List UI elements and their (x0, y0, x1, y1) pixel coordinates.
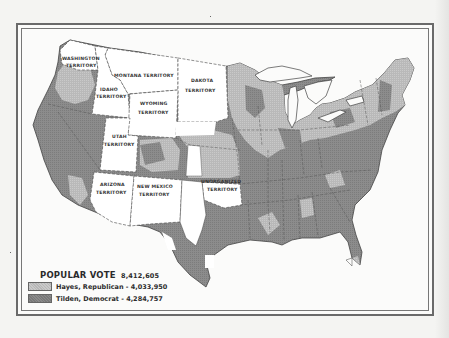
territory-arizona (90, 172, 134, 226)
lake-superior (255, 66, 312, 82)
unshaded-area-nebraska (176, 122, 216, 136)
label-new-mexico-territory: NEW MEXICO (137, 184, 173, 189)
svg-text:TERRITORY: TERRITORY (207, 187, 238, 192)
label-washington-territory: WASHINGTON (62, 56, 100, 61)
legend-label-hayes: Hayes, Republican - 4,033,950 (56, 283, 167, 291)
label-wyoming-territory: WYOMING (140, 101, 167, 106)
tilden-swatch (28, 294, 52, 303)
label-utah-territory: UTAH (112, 134, 127, 139)
label-dakota-territory: DAKOTA (191, 78, 213, 83)
hayes-patch (300, 198, 314, 218)
gulf-lagoon-florida (346, 258, 352, 266)
hayes-swatch (28, 282, 52, 291)
label-unorganized-territory: UNORGANIZED (201, 179, 241, 184)
legend-title: POPULAR VOTE 8,412,605 (40, 270, 167, 280)
tilden-patch (378, 80, 392, 112)
svg-text:TERRITORY: TERRITORY (138, 110, 169, 115)
svg-text:TERRITORY: TERRITORY (66, 63, 97, 68)
svg-text:TERRITORY: TERRITORY (96, 94, 127, 99)
territory-west-kansas-unshaded (186, 145, 202, 176)
label-montana-territory: MONTANA TERRITORY (114, 73, 174, 78)
legend-item-hayes: Hayes, Republican - 4,033,950 (28, 281, 167, 292)
legend-title-text: POPULAR VOTE (40, 270, 116, 280)
label-idaho-territory: IDAHO (100, 87, 118, 92)
legend: POPULAR VOTE 8,412,605 Hayes, Republican… (28, 270, 167, 304)
lake-michigan (288, 86, 298, 128)
svg-text:TERRITORY: TERRITORY (139, 192, 170, 197)
legend-label-tilden: Tilden, Democrat - 4,284,757 (56, 295, 163, 303)
legend-total-votes: 8,412,605 (121, 272, 159, 280)
unshaded-texas-patch (205, 255, 214, 268)
svg-text:TERRITORY: TERRITORY (104, 142, 135, 147)
legend-item-tilden: Tilden, Democrat - 4,284,757 (28, 293, 167, 304)
label-arizona-territory: ARIZONA (100, 182, 125, 187)
svg-text:TERRITORY: TERRITORY (185, 88, 216, 93)
svg-text:TERRITORY: TERRITORY (96, 190, 127, 195)
